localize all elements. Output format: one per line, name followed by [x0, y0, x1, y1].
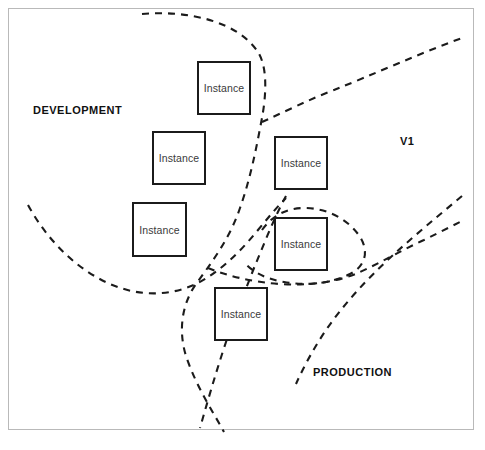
v1-boundary — [262, 38, 462, 122]
instance-box-2[interactable]: Instance — [152, 131, 206, 185]
instance-label: Instance — [221, 308, 262, 320]
production-zone-label: PRODUCTION — [313, 366, 392, 378]
instance-box-4[interactable]: Instance — [274, 136, 328, 190]
production-outer-boundary — [208, 220, 464, 285]
instance-box-6[interactable]: Instance — [214, 287, 268, 341]
instance-label: Instance — [281, 157, 322, 169]
instance-box-5[interactable]: Instance — [274, 217, 328, 271]
instance-box-3[interactable]: Instance — [132, 202, 187, 257]
diagram-canvas: InstanceInstanceInstanceInstanceInstance… — [0, 0, 485, 450]
instance-label: Instance — [139, 224, 180, 236]
instance-label: Instance — [204, 82, 245, 94]
instance-label: Instance — [281, 238, 322, 250]
instance-label: Instance — [159, 152, 200, 164]
instance-box-1[interactable]: Instance — [197, 61, 251, 115]
v1-zone-label: V1 — [400, 135, 414, 147]
development-zone-label: DEVELOPMENT — [33, 104, 122, 116]
